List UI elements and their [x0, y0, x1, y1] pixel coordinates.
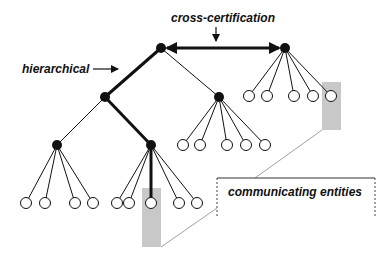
pki-trust-diagram: communicating entities cross-certificati… — [0, 0, 390, 259]
leaf-node — [40, 198, 51, 209]
leaf-node — [178, 140, 189, 151]
leaf-node — [192, 198, 203, 209]
leaf-node — [195, 140, 206, 151]
middle-ca-node — [214, 92, 224, 102]
leaf-node — [241, 140, 252, 151]
left-left-ca-node — [52, 140, 62, 150]
leaf-node — [112, 198, 123, 209]
communicating-entities-label: communicating entities — [228, 185, 362, 199]
callout-connector-upper — [255, 130, 322, 178]
root-ca-node — [156, 43, 166, 53]
leaf-node — [21, 198, 32, 209]
hierarchical-label: hierarchical — [22, 62, 90, 76]
leaf-node — [308, 91, 319, 102]
leaf-node — [222, 140, 233, 151]
leaf-node — [146, 198, 157, 209]
leaf-node — [260, 140, 271, 151]
leaf-node — [262, 91, 273, 102]
peer-ca-node — [280, 43, 290, 53]
leaf-node — [124, 198, 135, 209]
left-right-ca-node — [146, 140, 156, 150]
leaf-node — [88, 198, 99, 209]
leaf-node — [326, 91, 337, 102]
certification-path — [105, 48, 161, 203]
left-ca-node — [100, 92, 110, 102]
callout-connector-lower — [161, 208, 217, 247]
leaf-node — [174, 198, 185, 209]
cross-certification-label: cross-certification — [171, 11, 275, 25]
leaf-node — [70, 198, 81, 209]
leaf-node — [244, 91, 255, 102]
communicating-entities-callout: communicating entities — [217, 178, 375, 216]
leaf-node — [289, 91, 300, 102]
